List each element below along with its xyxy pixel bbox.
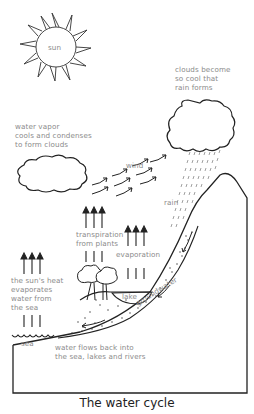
- rain-label: rain: [164, 198, 178, 207]
- water-vapor-label: water vapor cools and condenses to form …: [15, 122, 92, 149]
- clouds-become-label: clouds become so cool that rain forms: [175, 65, 231, 92]
- trees-icon: [78, 265, 118, 300]
- evaporation-label: evaporation: [116, 250, 160, 259]
- sea-label: sea: [21, 339, 34, 348]
- sun-label: sun: [48, 43, 61, 52]
- transpiration-label: transpiration from plants: [76, 230, 123, 248]
- sea-waves: [12, 335, 54, 337]
- wind-label: wind: [126, 161, 143, 170]
- cloud-icon: [18, 155, 87, 192]
- flows-back-label: water flows back into the sea, lakes and…: [55, 343, 146, 361]
- suns-heat-label: the sun's heat evaporates water from the…: [11, 276, 64, 312]
- rain-cloud-icon: [167, 100, 235, 152]
- rain-streaks: [171, 150, 220, 227]
- diagram-title: The water cycle: [0, 396, 254, 410]
